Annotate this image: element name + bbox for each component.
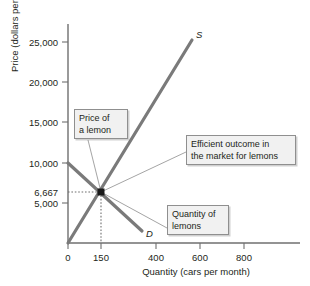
y-tick-label-6667: 6,667: [34, 187, 58, 198]
callout-price-of-a-lemon: Price of a lemon: [74, 109, 128, 139]
y-tick-label-5000: 5,000: [34, 198, 58, 209]
x-tick-label-400: 400: [148, 252, 164, 263]
y-tick-label-25000: 25,000: [29, 37, 58, 48]
demand-curve-label: D: [146, 228, 153, 239]
x-axis-title: Quantity (cars per month): [142, 266, 250, 277]
efficient-callout-leader: [101, 152, 186, 192]
y-tick-label-10000: 10,000: [29, 158, 58, 169]
x-tick-label-600: 600: [192, 252, 208, 263]
y-axis-title: Price (dollars per car): [9, 0, 20, 72]
x-tick-label-0: 0: [65, 252, 70, 263]
equilibrium-point-marker: [98, 189, 105, 196]
callout-quantity-of-lemons: Quantity of lemons: [167, 205, 229, 235]
supply-curve-label: S: [196, 29, 203, 40]
x-tick-label-150: 150: [93, 252, 109, 263]
x-tick-label-800: 800: [236, 252, 252, 263]
supply-demand-figure: 25,000 20,000 15,000 10,000 6,667 5,000 …: [0, 0, 310, 286]
y-tick-label-15000: 15,000: [29, 117, 58, 128]
callout-efficient-outcome: Efficient outcome in the market for lemo…: [186, 135, 296, 165]
y-tick-label-20000: 20,000: [29, 77, 58, 88]
demand-curve: [68, 163, 142, 231]
